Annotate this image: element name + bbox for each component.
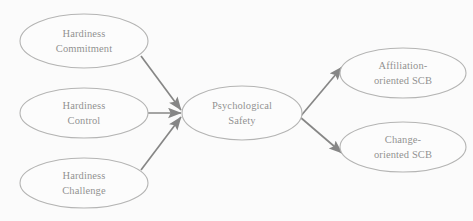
path-diagram: Hardiness Commitment Hardiness Control H… xyxy=(0,0,473,221)
diagram-canvas xyxy=(0,0,473,221)
edge-safety-to-change xyxy=(300,117,342,153)
node-ellipse-hardiness-commitment xyxy=(20,14,148,68)
edge-commitment-to-safety xyxy=(141,56,181,110)
node-ellipse-psychological-safety xyxy=(182,86,302,140)
node-ellipse-hardiness-challenge xyxy=(20,158,148,208)
node-ellipse-hardiness-control xyxy=(20,88,148,138)
node-ellipse-change-oriented-scb xyxy=(340,122,466,172)
node-ellipse-affiliation-oriented-scb xyxy=(340,48,466,98)
edge-safety-to-affiliation xyxy=(300,67,342,117)
nodes-layer xyxy=(20,14,466,208)
edge-challenge-to-safety xyxy=(141,117,181,170)
